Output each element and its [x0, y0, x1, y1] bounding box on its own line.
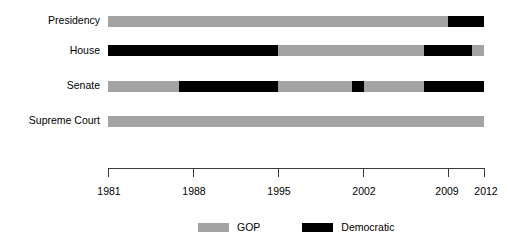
x-axis-line: [108, 168, 485, 169]
segment-supreme-court-gop-1981-2012: [108, 116, 484, 127]
legend-swatch-gop-icon: [198, 223, 229, 232]
legend-item-gop: GOP: [198, 222, 260, 233]
x-axis-tick-label-2012: 2012: [474, 186, 497, 197]
x-axis-tick-label-2002: 2002: [352, 186, 375, 197]
row-label-house: House: [0, 45, 100, 56]
row-label-presidency-wrap: Presidency: [0, 15, 100, 27]
x-axis-tick-1995: [278, 168, 279, 177]
x-axis-tick-label-2009: 2009: [435, 186, 458, 197]
row-label-senate: Senate: [0, 80, 100, 91]
bar-row-supreme-court: [108, 116, 484, 127]
segment-senate-democratic-2007-2012: [424, 81, 484, 92]
x-axis-tick-label-1995: 1995: [267, 186, 290, 197]
party-control-timeline-chart: Presidency House Senate Supreme Court 19…: [0, 0, 509, 245]
legend-label-democratic: Democratic: [341, 222, 394, 233]
x-axis-tick-label-1981: 1981: [97, 186, 120, 197]
segment-senate-democratic-1987-1995: [179, 81, 278, 92]
row-label-senate-wrap: Senate: [0, 80, 100, 92]
segment-presidency-democratic-2009-2012: [448, 16, 484, 27]
chart-legend: GOP Democratic: [198, 222, 394, 233]
legend-label-gop: GOP: [237, 222, 260, 233]
legend-swatch-democratic-icon: [302, 223, 333, 232]
x-axis-tick-2012: [484, 168, 485, 177]
segment-senate-gop-1995-2001: [278, 81, 352, 92]
segment-house-gop-1995-2007: [278, 45, 424, 56]
segment-house-democratic-2007-2011: [424, 45, 472, 56]
row-label-house-wrap: House: [0, 45, 100, 57]
x-axis-tick-2002: [363, 168, 364, 177]
segment-presidency-gop-1981-2009: [108, 16, 448, 27]
legend-item-democratic: Democratic: [302, 222, 394, 233]
segment-house-gop-2011-2012: [472, 45, 484, 56]
bar-row-senate: [108, 81, 484, 92]
bar-row-presidency: [108, 16, 484, 27]
bar-row-house: [108, 45, 484, 56]
x-axis-tick-1981: [108, 168, 109, 177]
row-label-supreme-court-wrap: Supreme Court: [0, 115, 100, 127]
segment-senate-gop-2002-2007: [364, 81, 424, 92]
x-axis-tick-2009: [448, 168, 449, 177]
segment-senate-democratic-2001-2002: [352, 81, 364, 92]
row-label-presidency: Presidency: [0, 15, 100, 26]
segment-house-democratic-1981-1995: [108, 45, 278, 56]
x-axis-tick-1988: [193, 168, 194, 177]
segment-senate-gop-1981-1987: [108, 81, 179, 92]
x-axis-tick-label-1988: 1988: [182, 186, 205, 197]
row-label-supreme-court: Supreme Court: [0, 115, 100, 126]
